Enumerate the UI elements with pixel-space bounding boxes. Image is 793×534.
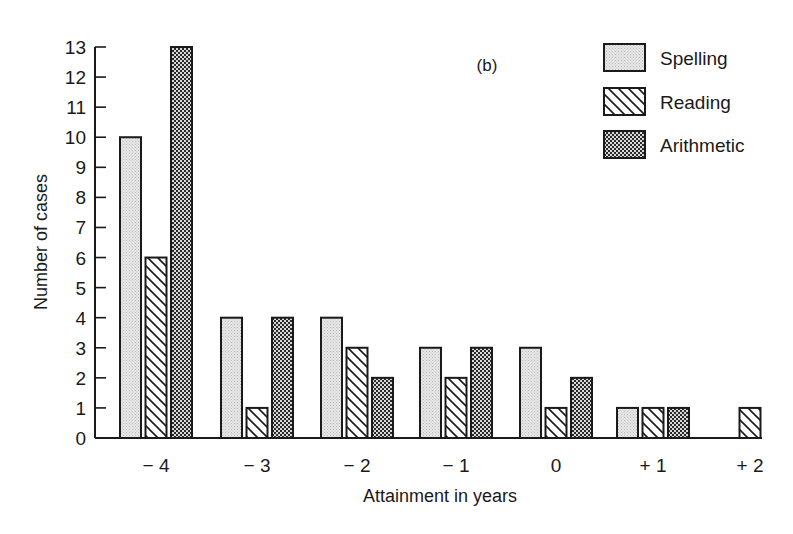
bar-reading-0 [146,258,167,438]
bar-reading-3 [446,378,467,438]
y-tick-label: 6 [75,248,86,269]
bar-arithmetic-5 [668,408,689,438]
bar-spelling-2 [321,318,342,438]
bar-arithmetic-0 [171,47,192,438]
bar-spelling-5 [617,408,638,438]
x-tick-label: 0 [551,455,562,476]
bar-spelling-1 [221,318,242,438]
x-tick-label: − 2 [344,455,371,476]
bar-reading-2 [347,348,368,438]
x-tick-label: − 1 [443,455,470,476]
legend-swatch-reading [604,88,645,115]
legend-swatch-arithmetic [604,131,645,158]
x-axis-title: Attainment in years [363,486,517,506]
y-tick-label: 12 [65,67,86,88]
y-tick-label: 3 [75,338,86,359]
y-tick-label: 0 [75,428,86,449]
y-tick-label: 10 [65,127,86,148]
y-tick-label: 7 [75,217,86,238]
legend-swatch-spelling [604,44,645,71]
x-tick-label: + 1 [640,455,667,476]
x-tick-label: + 2 [737,455,764,476]
y-axis-title: Number of cases [31,174,51,310]
bar-reading-1 [247,408,268,438]
x-tick-label: − 3 [244,455,271,476]
y-tick-label: 1 [75,398,86,419]
bar-chart: 012345678910111213 − 4− 3− 2− 10+ 1+ 2 S… [0,0,793,534]
y-tick-label: 11 [66,97,86,118]
legend-label-reading: Reading [660,92,731,113]
bar-spelling-3 [420,348,441,438]
bar-spelling-0 [120,137,141,438]
bar-arithmetic-3 [471,348,492,438]
bar-reading-4 [546,408,567,438]
legend: SpellingReadingArithmetic [604,44,744,158]
y-tick-label: 8 [75,187,86,208]
y-tick-label: 13 [65,37,86,58]
bar-arithmetic-4 [571,378,592,438]
x-axis: − 4− 3− 2− 10+ 1+ 2 [95,438,763,476]
bar-arithmetic-1 [272,318,293,438]
y-tick-label: 2 [75,368,86,389]
y-tick-label: 9 [75,157,86,178]
bar-arithmetic-2 [372,378,393,438]
y-axis: 012345678910111213 [65,37,106,449]
legend-label-spelling: Spelling [660,48,728,69]
bar-reading-6 [740,408,761,438]
legend-label-arithmetic: Arithmetic [660,135,744,156]
bar-reading-5 [643,408,664,438]
chart-title: (b) [477,56,498,75]
y-tick-label: 4 [75,308,86,329]
x-tick-label: − 4 [143,455,170,476]
bar-spelling-4 [520,348,541,438]
y-tick-label: 5 [75,278,86,299]
